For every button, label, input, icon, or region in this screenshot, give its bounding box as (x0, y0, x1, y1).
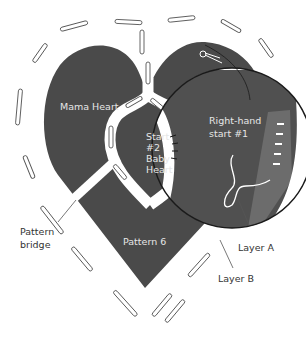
pin (220, 19, 241, 33)
label-start2-l1: Start (146, 131, 169, 142)
pin (15, 89, 22, 125)
layer-b-leader (220, 240, 233, 268)
pin (168, 16, 195, 23)
pin (164, 299, 185, 323)
pin (258, 38, 274, 58)
pin (151, 293, 172, 317)
label-start2-l2: #2 (146, 142, 160, 153)
pin (60, 20, 88, 31)
label-right-hand-l2: start #1 (209, 128, 248, 139)
label-layer-b: Layer B (218, 273, 254, 284)
pin (140, 30, 144, 54)
pin (115, 19, 142, 24)
label-pattern-bridge-l1: Pattern (20, 226, 54, 237)
appliqué-heart-diagram: Mama Heart Start #2 Baby Heart Right-han… (0, 0, 306, 337)
label-mama-heart: Mama Heart (60, 101, 119, 112)
label-pattern6: Pattern 6 (123, 236, 166, 247)
pin (187, 253, 210, 278)
label-start2-l3: Baby (146, 153, 170, 164)
label-start2-l4: Heart (146, 164, 173, 175)
bridge-pin (109, 126, 113, 148)
pin (113, 290, 138, 317)
pin (23, 155, 36, 179)
diagram-svg: Mama Heart Start #2 Baby Heart Right-han… (0, 0, 306, 337)
pin (32, 43, 48, 63)
pattern-bridge-leader (58, 200, 76, 222)
pin (71, 246, 93, 272)
label-right-hand-l1: Right-hand (209, 115, 261, 126)
bridge-pin (146, 62, 150, 84)
label-pattern-bridge-l2: bridge (20, 239, 51, 250)
label-layer-a: Layer A (238, 242, 275, 253)
